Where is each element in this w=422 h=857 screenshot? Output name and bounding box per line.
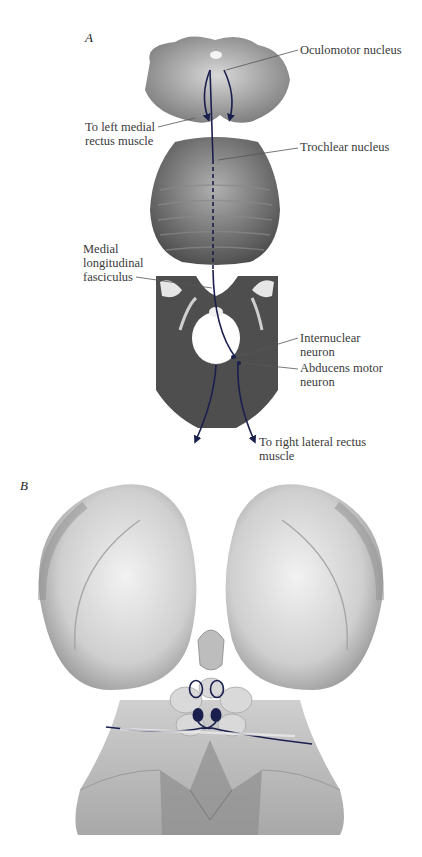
left-hemisphere bbox=[39, 484, 197, 690]
midline-cleft bbox=[198, 630, 224, 670]
panel-b-illustration bbox=[0, 0, 422, 857]
brainstem-body bbox=[75, 700, 344, 835]
right-hemisphere bbox=[226, 484, 384, 690]
